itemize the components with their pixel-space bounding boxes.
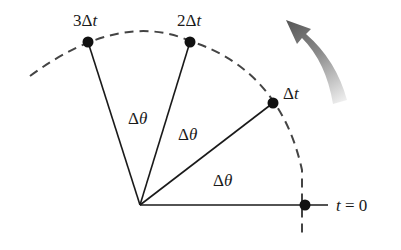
angle-label-3: Δθ — [128, 109, 147, 128]
point-t0-dot — [300, 200, 311, 211]
angle-label-2: Δθ — [178, 125, 197, 144]
radius-dt2 — [140, 42, 190, 205]
point-dt3-dot — [83, 37, 94, 48]
label-t0: t = 0 — [336, 196, 367, 215]
circular-motion-diagram: t = 0 Δt 2Δt 3Δt Δθ Δθ Δθ — [0, 0, 401, 250]
label-dt3: 3Δt — [73, 11, 98, 30]
point-dt1-dot — [268, 98, 279, 109]
angle-label-1: Δθ — [213, 171, 232, 190]
label-dt1: Δt — [283, 84, 300, 103]
point-dt2-dot — [185, 37, 196, 48]
radius-dt1 — [140, 103, 273, 205]
label-dt2: 2Δt — [177, 11, 202, 30]
